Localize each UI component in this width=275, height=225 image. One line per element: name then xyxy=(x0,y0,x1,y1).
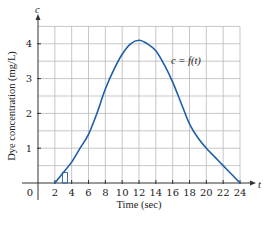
x-tick-label: 12 xyxy=(133,187,146,198)
dye-concentration-chart: 246810121416182022241234 c = f(t) Time (… xyxy=(0,0,275,225)
x-tick-label: 8 xyxy=(102,187,108,198)
x-tick-label: 10 xyxy=(116,187,129,198)
x-axis-arrow-icon xyxy=(250,181,256,186)
curve-c-f-t xyxy=(55,40,240,183)
curve-label: c = f(t) xyxy=(171,55,201,67)
x-tick-label: 16 xyxy=(166,187,179,198)
y-axis-variable: c xyxy=(35,4,40,15)
x-tick-label: 6 xyxy=(85,187,91,198)
y-tick-label: 1 xyxy=(26,143,32,154)
x-axis-variable: t xyxy=(258,179,262,190)
tick-labels: 246810121416182022241234 xyxy=(26,38,247,198)
y-axis-title: Dye concentration (mg/L) xyxy=(6,51,18,161)
grid-lines xyxy=(38,26,240,183)
y-tick-label: 3 xyxy=(26,73,32,84)
x-tick-label: 4 xyxy=(68,187,74,198)
x-tick-label: 18 xyxy=(183,187,196,198)
x-tick-label: 24 xyxy=(234,187,247,198)
x-axis-title: Time (sec) xyxy=(117,199,162,211)
x-tick-label: 22 xyxy=(217,187,230,198)
x-tick-label: 20 xyxy=(200,187,213,198)
sample-bar-marker xyxy=(62,173,67,183)
y-tick-label: 2 xyxy=(26,108,32,119)
origin-label: 0 xyxy=(27,187,33,198)
x-tick-label: 2 xyxy=(52,187,58,198)
x-tick-label: 14 xyxy=(149,187,162,198)
y-tick-label: 4 xyxy=(26,38,32,49)
